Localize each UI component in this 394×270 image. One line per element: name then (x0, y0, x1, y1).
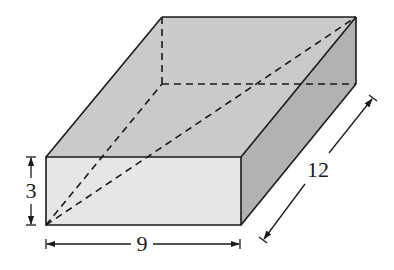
rectangular-prism-diagram (0, 0, 394, 270)
front-face (46, 157, 241, 225)
depth-tick-bottom (259, 237, 267, 243)
depth-arrow-down (264, 184, 305, 239)
width-label: 9 (135, 233, 150, 255)
depth-label: 12 (305, 159, 331, 181)
height-label: 3 (24, 180, 39, 202)
depth-tick-top (369, 95, 377, 101)
